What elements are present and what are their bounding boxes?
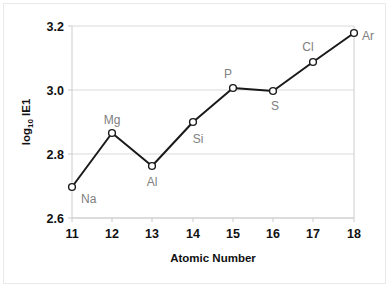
x-axis-title: Atomic Number <box>170 252 256 264</box>
data-point-ar[interactable] <box>351 30 358 37</box>
point-label-si: Si <box>193 132 204 146</box>
x-tick-label-4: 15 <box>226 227 240 241</box>
y-axis-title-prefix: log <box>20 128 32 145</box>
x-tick-label-0: 11 <box>65 227 78 241</box>
data-point-mg[interactable] <box>109 130 116 137</box>
x-tick-label-5: 16 <box>266 227 280 241</box>
y-tick-label-1: 2.8 <box>47 148 64 162</box>
y-tick-label-0: 2.6 <box>47 212 64 226</box>
point-label-mg: Mg <box>104 113 121 127</box>
data-point-al[interactable] <box>149 163 156 170</box>
chart-canvas: 3.2 3.0 2.8 2.6 11 12 13 14 15 16 17 18 … <box>0 0 389 287</box>
y-tick-label-2: 3.0 <box>47 84 64 98</box>
x-tick-label-6: 17 <box>306 227 320 241</box>
data-point-cl[interactable] <box>310 59 317 66</box>
point-label-al: Al <box>147 175 158 189</box>
y-tick-label-3: 3.2 <box>47 20 64 34</box>
y-axis-title-suffix: IE1 <box>20 98 32 119</box>
data-point-s[interactable] <box>270 88 277 95</box>
data-point-si[interactable] <box>190 119 197 126</box>
x-tick-label-2: 13 <box>145 227 159 241</box>
svg-text:log10 IE1: log10 IE1 <box>20 98 35 145</box>
point-label-na: Na <box>81 192 97 206</box>
data-point-p[interactable] <box>230 85 237 92</box>
x-tick-label-1: 12 <box>105 227 119 241</box>
x-tick-label-7: 18 <box>347 227 361 241</box>
data-point-na[interactable] <box>69 184 76 191</box>
chart-figure: 3.2 3.0 2.8 2.6 11 12 13 14 15 16 17 18 … <box>0 0 389 287</box>
point-label-cl: Cl <box>302 40 313 54</box>
point-label-s: S <box>271 99 279 113</box>
point-label-ar: Ar <box>362 29 374 43</box>
x-tick-marks <box>72 218 354 222</box>
x-tick-label-3: 14 <box>186 227 200 241</box>
point-label-p: P <box>224 67 232 81</box>
y-axis-title: log10 IE1 <box>20 98 35 145</box>
